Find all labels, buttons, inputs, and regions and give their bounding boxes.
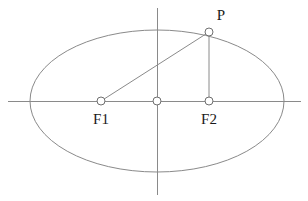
ellipse-diagram-canvas: F1 F2 P (0, 0, 308, 201)
focus-1-marker (97, 97, 105, 105)
focus-1-label: F1 (93, 111, 109, 127)
point-p-marker (205, 28, 213, 36)
point-p-label: P (217, 7, 226, 23)
focus-2-label: F2 (201, 111, 217, 127)
segment-focus1-to-p (101, 32, 209, 101)
ellipse-diagram-svg: F1 F2 P (0, 0, 308, 201)
center-marker (153, 97, 161, 105)
focus-2-marker (205, 97, 213, 105)
